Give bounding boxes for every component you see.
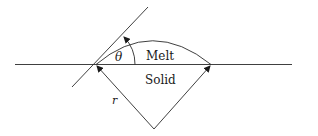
radius-label: r bbox=[112, 95, 117, 106]
solid-label: Solid bbox=[145, 74, 176, 86]
contact-angle-diagram: θ Melt Solid r bbox=[0, 0, 318, 136]
diagram-graphics bbox=[0, 0, 318, 136]
tangent-line bbox=[72, 7, 148, 87]
contact-angle-arc bbox=[124, 37, 135, 65]
melt-label: Melt bbox=[146, 50, 174, 62]
angle-label: θ bbox=[115, 51, 122, 63]
